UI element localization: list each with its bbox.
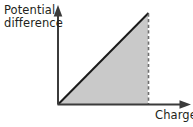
y-axis-label: Potential difference (4, 4, 63, 30)
chart-figure: Potential difference Charge (0, 0, 193, 127)
y-axis-label-line-1: Potential (4, 3, 55, 17)
x-axis-label: Charge (155, 109, 193, 122)
y-axis-label-line-2: difference (4, 17, 63, 30)
